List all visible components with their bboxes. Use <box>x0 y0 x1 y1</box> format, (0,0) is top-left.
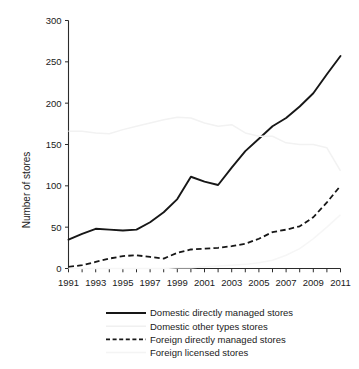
legend-label: Foreign licensed stores <box>150 347 248 358</box>
y-axis-tick-labels: 050100150200250300 <box>46 15 62 274</box>
x-tick-label: 2005 <box>248 277 269 288</box>
y-tick-label: 200 <box>46 98 62 109</box>
x-axis-tick-labels: 1991199319951997199920012003200520072009… <box>58 277 351 288</box>
x-tick-label: 2007 <box>276 277 297 288</box>
legend-label: Foreign directly managed stores <box>150 334 286 345</box>
legend-label: Domestic other types stores <box>150 321 268 332</box>
x-tick-label: 2001 <box>194 277 215 288</box>
series-line <box>69 117 341 171</box>
series-group <box>69 56 341 268</box>
y-tick-label: 0 <box>56 263 61 274</box>
x-tick-label: 1993 <box>85 277 106 288</box>
chart-figure: Number of stores 050100150200250300 1991… <box>0 0 359 369</box>
line-chart: Number of stores 050100150200250300 1991… <box>0 0 359 369</box>
chart-legend: Domestic directly managed storesDomestic… <box>106 307 293 358</box>
x-tick-label: 1997 <box>140 277 161 288</box>
y-tick-label: 100 <box>46 180 62 191</box>
x-tick-label: 2009 <box>303 277 324 288</box>
y-tick-label: 300 <box>46 15 62 26</box>
series-line <box>69 215 341 269</box>
x-tick-label: 1991 <box>58 277 79 288</box>
series-line <box>69 56 341 240</box>
x-tick-label: 1999 <box>167 277 188 288</box>
legend-label: Domestic directly managed stores <box>150 307 293 318</box>
x-tick-label: 1995 <box>112 277 133 288</box>
x-tick-label: 2011 <box>330 277 350 288</box>
series-line <box>69 186 341 267</box>
x-tick-label: 2003 <box>221 277 242 288</box>
y-tick-label: 50 <box>51 222 62 233</box>
y-tick-label: 250 <box>46 56 62 67</box>
y-axis-title: Number of stores <box>21 152 32 229</box>
y-tick-label: 150 <box>46 139 62 150</box>
